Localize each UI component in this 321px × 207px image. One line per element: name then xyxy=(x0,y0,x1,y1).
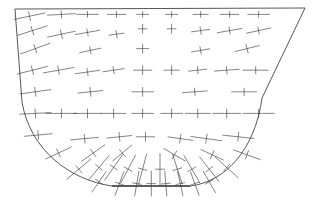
stress-cross xyxy=(109,30,125,38)
minor-axis xyxy=(210,150,214,159)
stress-cross xyxy=(185,109,211,119)
stress-cross xyxy=(191,134,223,144)
stress-cross xyxy=(136,132,155,142)
minor-axis xyxy=(95,164,102,170)
stress-cross xyxy=(107,11,126,17)
stress-cross xyxy=(47,30,75,39)
stress-cross xyxy=(246,27,271,35)
stress-cross xyxy=(73,109,102,119)
minor-axis xyxy=(84,134,85,144)
stress-cross xyxy=(45,147,71,159)
stress-cross xyxy=(243,109,275,119)
stress-cross xyxy=(193,11,209,17)
stress-cross xyxy=(191,47,210,55)
minor-axis xyxy=(245,150,248,159)
stress-cross xyxy=(89,155,110,180)
stress-cross xyxy=(131,87,153,97)
minor-axis xyxy=(31,26,34,35)
stress-cross xyxy=(132,171,141,196)
stress-cross xyxy=(75,68,100,76)
stress-cross xyxy=(182,88,208,96)
stress-cross xyxy=(165,11,178,17)
stress-cross xyxy=(78,87,103,97)
minor-axis xyxy=(115,182,124,185)
stress-cross xyxy=(107,132,132,142)
stress-cross xyxy=(47,10,76,18)
minor-axis xyxy=(110,165,118,171)
stress-cross xyxy=(103,66,125,74)
minor-axis xyxy=(57,149,61,158)
stress-cross xyxy=(20,43,50,54)
stress-cross xyxy=(215,157,239,178)
stress-cross xyxy=(231,88,257,96)
stress-cross xyxy=(138,154,147,185)
stress-cross xyxy=(217,27,242,35)
stress-cross xyxy=(131,109,153,119)
stress-cross xyxy=(164,65,180,75)
stress-cross xyxy=(24,130,53,140)
stress-cross xyxy=(161,171,171,197)
minor-axis xyxy=(197,66,198,74)
minor-axis xyxy=(38,130,39,140)
stress-cross xyxy=(20,87,52,97)
stress-cross xyxy=(76,11,98,17)
stress-cross xyxy=(201,149,224,160)
stress-cross xyxy=(176,171,185,196)
stress-field-diagram xyxy=(0,0,321,207)
principal-stress-crosses xyxy=(14,10,275,196)
minor-axis xyxy=(35,109,36,119)
stress-cross xyxy=(220,11,239,17)
stress-cross xyxy=(212,109,241,119)
minor-axis xyxy=(188,167,196,172)
stress-cross xyxy=(133,65,152,75)
stress-cross xyxy=(243,66,269,74)
stress-cross xyxy=(155,153,165,185)
stress-cross xyxy=(203,171,216,193)
minor-axis xyxy=(76,166,82,173)
stress-cross xyxy=(184,155,200,183)
stress-cross xyxy=(214,66,240,74)
stress-cross xyxy=(43,66,75,75)
stress-cross xyxy=(136,11,149,17)
stress-cross xyxy=(190,172,199,196)
stress-cross xyxy=(115,172,124,196)
stress-cross xyxy=(188,66,207,74)
stress-cross xyxy=(70,134,99,144)
stress-cross xyxy=(113,145,133,161)
minor-axis xyxy=(206,166,214,172)
stress-cross xyxy=(79,47,101,55)
stress-cross xyxy=(14,12,45,21)
minor-axis xyxy=(173,168,182,171)
minor-axis xyxy=(34,44,37,53)
stress-cross xyxy=(75,29,100,37)
minor-axis xyxy=(226,66,227,74)
minor-axis xyxy=(161,183,171,184)
stress-cross xyxy=(235,44,260,53)
stress-cross xyxy=(17,66,48,75)
minor-axis xyxy=(91,149,97,157)
stress-cross xyxy=(136,44,149,54)
stress-cross xyxy=(147,171,157,197)
stress-cross xyxy=(167,24,177,34)
stress-cross xyxy=(138,24,148,34)
minor-axis xyxy=(195,88,196,96)
minor-axis xyxy=(119,149,125,156)
stress-cross xyxy=(199,157,219,182)
minor-axis xyxy=(124,167,132,172)
stress-cross xyxy=(82,145,106,162)
stress-cross xyxy=(247,11,269,17)
stress-cross xyxy=(168,134,193,144)
stress-cross xyxy=(160,109,182,119)
stress-cross xyxy=(45,109,77,119)
stress-cross xyxy=(17,26,47,36)
stress-cross xyxy=(101,109,127,119)
stress-cross xyxy=(191,27,210,35)
stress-cross xyxy=(121,155,136,183)
